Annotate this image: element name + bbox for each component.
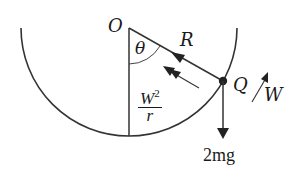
- weight-arrowhead-icon: [217, 128, 229, 139]
- numerator-exponent: 2: [154, 87, 160, 99]
- diagram-canvas: O θ R Q W W2 r 2mg: [0, 0, 300, 172]
- label-weight: 2mg: [203, 146, 235, 164]
- label-o: O: [108, 17, 123, 35]
- numerator-w: W: [140, 89, 154, 108]
- label-theta: θ: [135, 40, 145, 57]
- fraction-numerator: W2: [138, 85, 162, 108]
- label-q: Q: [233, 76, 248, 94]
- label-velocity-w: W: [264, 86, 283, 104]
- reaction-arrow-icon: [171, 52, 185, 63]
- fraction-denominator: r: [138, 108, 162, 124]
- centripetal-fraction: W2 r: [138, 85, 162, 124]
- label-r-force: R: [180, 31, 194, 49]
